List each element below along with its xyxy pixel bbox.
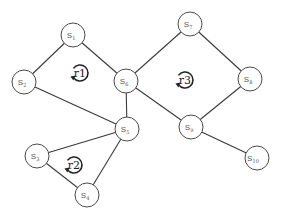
node-label-subscript: 4 [86, 195, 89, 201]
node-s2: S2 [12, 70, 36, 94]
node-s4: S4 [75, 183, 99, 207]
node-label-subscript: 5 [126, 129, 129, 135]
node-s3: S3 [25, 144, 49, 168]
region-label: r2 [68, 159, 80, 172]
node-s6: S6 [114, 69, 138, 93]
node-label-subscript: 9 [190, 127, 193, 133]
edge-s2-s5 [24, 82, 127, 129]
node-label-subscript: 8 [249, 79, 252, 85]
region-r1: r1 [70, 65, 88, 81]
node-label-subscript: 10 [253, 158, 259, 164]
region-label: r1 [74, 67, 86, 80]
node-label-subscript: 2 [23, 82, 26, 88]
node-label-subscript: 6 [125, 81, 128, 87]
node-s9: S9 [179, 115, 203, 139]
region-r3: r3 [175, 72, 193, 88]
node-s7: S7 [178, 12, 202, 36]
graph-diagram: r1r2r3 S1S2S3S4S5S6S7S8S9S10 [0, 0, 283, 218]
edge-s6-s7 [126, 24, 190, 81]
node-s5: S5 [115, 117, 139, 141]
node-s1: S1 [61, 23, 85, 47]
node-s8: S8 [238, 67, 262, 91]
node-label-subscript: 7 [189, 24, 192, 30]
node-label-subscript: 3 [36, 156, 39, 162]
region-r2: r2 [64, 157, 82, 173]
node-s10: S10 [245, 146, 269, 170]
node-label-subscript: 1 [72, 35, 75, 41]
edges-layer [24, 24, 257, 195]
region-label: r3 [179, 74, 191, 87]
nodes-layer: S1S2S3S4S5S6S7S8S9S10 [12, 12, 269, 207]
